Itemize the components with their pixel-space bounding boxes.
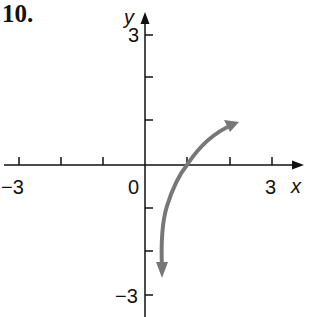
y-tick-label-neg3: −3 (115, 285, 138, 307)
curve (162, 125, 232, 268)
x-axis-label: x (290, 175, 302, 197)
origin-label: 0 (128, 176, 139, 198)
y-axis-arrow-icon (141, 12, 150, 24)
y-axis-label: y (122, 6, 135, 28)
x-tick-label-neg3: −3 (1, 176, 24, 198)
curve-arrow-down-icon (156, 262, 168, 278)
x-tick-label-3: 3 (265, 176, 276, 198)
graph: −3 0 3 x 3 −3 y (0, 0, 311, 317)
x-axis-arrow-icon (292, 161, 304, 170)
